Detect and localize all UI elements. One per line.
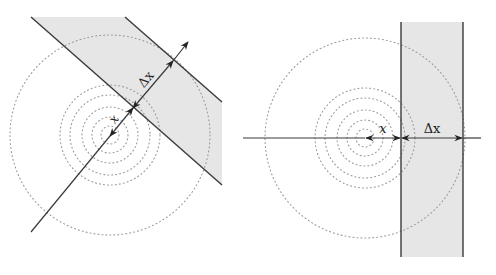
right-panel: x Δx: [243, 22, 481, 257]
left-panel: x Δx: [10, 17, 222, 235]
radial-line: [31, 136, 110, 232]
label-x: x: [379, 121, 387, 136]
vertical-slab: [401, 22, 463, 257]
wavefront-circle: [92, 117, 128, 153]
diagram-canvas: x Δx x Δx: [0, 0, 496, 275]
label-delta-x: Δx: [424, 121, 441, 136]
outgoing-ray-arrow: [173, 42, 188, 61]
